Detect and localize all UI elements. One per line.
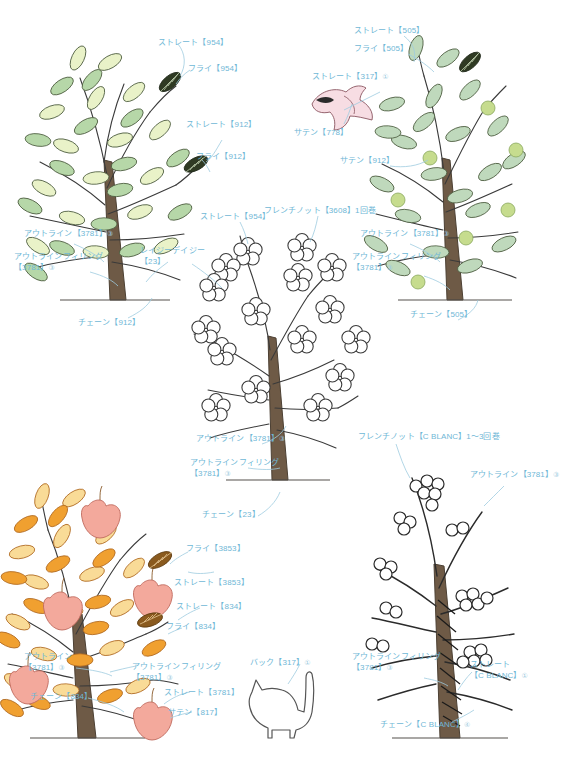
label-french-knot-3608: フレンチノット【3608】1回巻 <box>264 206 376 217</box>
label-outline-3781-t5: アウトライン【3781】③ <box>470 470 559 481</box>
label-outline-3781-t4: アウトライン【3781】③ <box>24 652 94 673</box>
label-straight-912: ストレート【912】 <box>186 120 256 131</box>
label-chain-blanc: チェーン【C BLANC】④ <box>380 720 470 731</box>
label-straight-505: ストレート【505】 <box>354 26 424 37</box>
motif-tree-berry <box>366 475 514 738</box>
label-lazy-daisy-23: レイジーデイジー【23】 <box>140 246 212 267</box>
label-outline-3781-t1: アウトライン【3781】③ <box>24 229 113 240</box>
label-fly-505: フライ【505】 <box>354 44 408 55</box>
label-chain-912: チェーン【912】 <box>78 318 140 329</box>
label-fly-3853: フライ【3853】 <box>186 544 245 555</box>
label-french-knot-blanc: フレンチノット【C BLANC】1〜3回巻 <box>358 432 500 443</box>
motif-cat <box>249 672 313 738</box>
label-chain-834: チェーン【834】 <box>30 692 92 703</box>
label-outline-filling-3781-t5: アウトラインフィリング【3781】③ <box>352 652 448 673</box>
label-chain-505: チェーン【505】 <box>410 310 472 321</box>
label-fly-834: フライ【834】 <box>166 622 220 633</box>
label-straight-3781-t4: ストレート【3781】 <box>164 688 239 699</box>
label-outline-3781-t2: アウトライン【3781】③ <box>360 229 449 240</box>
label-straight-954-t3: ストレート【954】 <box>200 212 270 223</box>
label-outline-filling-3781-t4: アウトラインフィリング【3781】③ <box>132 662 230 683</box>
label-straight-blanc: ストレート【C BLANC】① <box>470 660 550 681</box>
label-straight-317: ストレート【317】① <box>312 72 389 83</box>
pattern-sheet: ストレート【954】 フライ【954】 ストレート【912】 フライ【912】 … <box>0 0 564 761</box>
label-outline-3781-t3: アウトライン【3781】③ <box>196 434 285 445</box>
label-outline-filling-3781-t1: アウトラインフィリング【3781】③ <box>14 252 106 273</box>
label-satin-778: サテン【778】 <box>294 128 348 139</box>
label-satin-817: サテン【817】 <box>168 708 222 719</box>
label-back-317: バック【317】① <box>250 658 311 669</box>
label-satin-912: サテン【912】 <box>340 156 394 167</box>
label-fly-954: フライ【954】 <box>188 64 242 75</box>
label-straight-954: ストレート【954】 <box>158 38 228 49</box>
pattern-artwork <box>0 0 564 761</box>
label-straight-3853: ストレート【3853】 <box>174 578 249 589</box>
motif-bird <box>312 86 372 130</box>
label-outline-filling-3781-t3: アウトラインフィリング【3781】③ <box>190 458 286 479</box>
label-fly-912: フライ【912】 <box>196 152 250 163</box>
label-outline-filling-3781-t2: アウトラインフィリング【3781】③ <box>352 252 448 273</box>
label-straight-834: ストレート【834】 <box>176 602 246 613</box>
label-chain-23: チェーン【23】 <box>202 510 260 521</box>
